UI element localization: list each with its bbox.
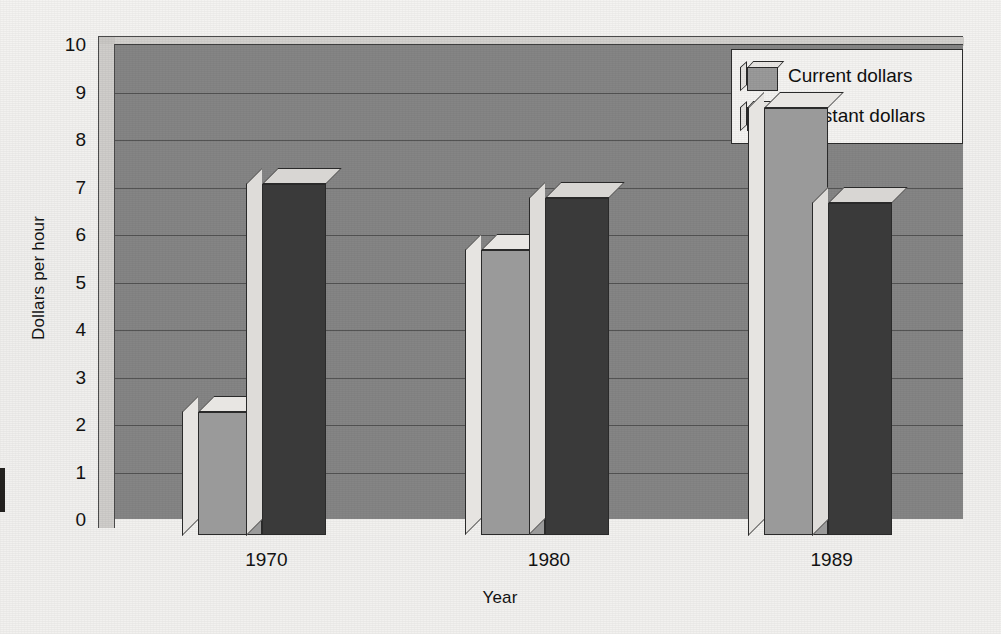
swatch-face bbox=[747, 67, 778, 91]
bar-1980-constant bbox=[545, 182, 609, 535]
x-tick-label-1980: 1980 bbox=[489, 549, 609, 571]
bar-side-face bbox=[812, 187, 828, 536]
y-tick-label: 8 bbox=[52, 130, 86, 149]
y-tick-label: 2 bbox=[52, 415, 86, 434]
bar-side-face bbox=[182, 396, 198, 536]
x-tick-label-1989: 1989 bbox=[772, 549, 892, 571]
x-axis-title: Year bbox=[430, 588, 570, 608]
y-tick-label: 5 bbox=[52, 273, 86, 292]
legend-label: Current dollars bbox=[788, 65, 913, 87]
plot-left-slab bbox=[98, 44, 115, 528]
bar-front-face bbox=[828, 203, 892, 536]
bar-side-face bbox=[529, 182, 545, 535]
legend-row: Current dollars bbox=[740, 56, 954, 96]
y-axis-title: Dollars per hour bbox=[29, 183, 49, 373]
y-tick-label: 6 bbox=[52, 225, 86, 244]
cube-swatch-light bbox=[740, 61, 778, 91]
y-tick-label: 7 bbox=[52, 178, 86, 197]
bar-side-face bbox=[465, 234, 481, 535]
y-tick-label: 4 bbox=[52, 320, 86, 339]
bar-front-face bbox=[545, 198, 609, 535]
bar-chart: Dollars per hour Year 012345678910 19701… bbox=[0, 0, 1001, 634]
bar-side-face bbox=[748, 92, 764, 536]
bar-side-face bbox=[246, 168, 262, 536]
y-tick-label: 9 bbox=[52, 83, 86, 102]
x-tick-label-1970: 1970 bbox=[206, 549, 326, 571]
y-tick-label: 10 bbox=[52, 35, 86, 54]
bar-front-face bbox=[262, 184, 326, 536]
bar-1970-constant bbox=[262, 168, 326, 536]
y-axis-tick-labels: 012345678910 bbox=[52, 0, 86, 634]
y-tick-label: 3 bbox=[52, 368, 86, 387]
swatch-face bbox=[740, 61, 747, 91]
y-tick-label: 1 bbox=[52, 463, 86, 482]
bar-1989-constant bbox=[828, 187, 892, 536]
swatch-face bbox=[740, 101, 747, 131]
y-tick-label: 0 bbox=[52, 510, 86, 529]
